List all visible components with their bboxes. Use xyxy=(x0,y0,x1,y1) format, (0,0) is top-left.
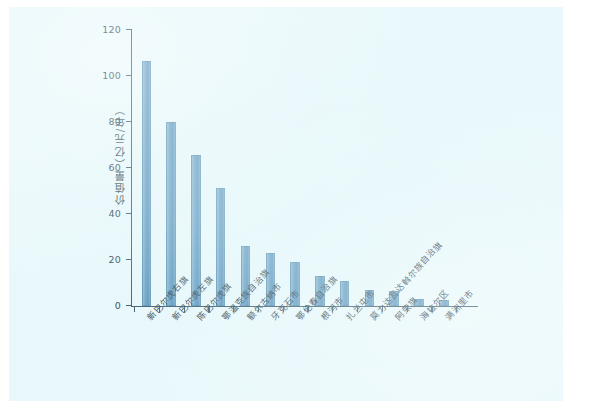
x-tick-mark xyxy=(159,307,160,312)
y-tick-label: 40 xyxy=(81,208,121,219)
x-tick-mark xyxy=(456,307,457,312)
y-tick-label: 0 xyxy=(81,300,121,311)
y-tick-label: 100 xyxy=(81,70,121,81)
x-tick-mark xyxy=(307,307,308,312)
x-tick-mark xyxy=(184,307,185,312)
y-tick-mark xyxy=(126,121,131,122)
x-tick-mark xyxy=(283,307,284,312)
y-tick-mark xyxy=(126,167,131,168)
x-tick-mark xyxy=(332,307,333,312)
x-tick-mark xyxy=(407,307,408,312)
y-axis-line xyxy=(131,29,132,306)
x-tick-mark xyxy=(258,307,259,312)
y-tick-mark xyxy=(126,305,131,306)
y-tick-mark xyxy=(126,75,131,76)
y-tick-label: 80 xyxy=(81,116,121,127)
plot-area: 价值量（亿元/年） 020406080100120 新巴尔虎右旗新巴尔虎左旗陈巴… xyxy=(9,7,563,401)
x-tick-mark xyxy=(233,307,234,312)
y-tick-mark xyxy=(126,29,131,30)
bar xyxy=(166,122,176,306)
y-tick-label: 60 xyxy=(81,162,121,173)
y-tick-mark xyxy=(126,213,131,214)
y-tick-label: 20 xyxy=(81,254,121,265)
x-tick-mark xyxy=(382,307,383,312)
x-tick-mark xyxy=(208,307,209,312)
y-tick-label: 120 xyxy=(81,24,121,35)
chart-figure: 价值量（亿元/年） 020406080100120 新巴尔虎右旗新巴尔虎左旗陈巴… xyxy=(9,7,563,401)
x-tick-mark xyxy=(134,307,135,312)
bar xyxy=(142,61,152,306)
y-tick-mark xyxy=(126,259,131,260)
x-tick-mark xyxy=(431,307,432,312)
x-tick-mark xyxy=(357,307,358,312)
